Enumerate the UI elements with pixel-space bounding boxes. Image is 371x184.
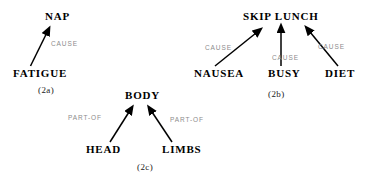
node-body: BODY: [125, 90, 160, 101]
node-nausea: NAUSEA: [194, 68, 244, 79]
caption-2c: (2c): [137, 163, 153, 172]
arrow-limbs-to-body: [152, 112, 172, 142]
arrow-head-to-body: [110, 112, 129, 142]
edge-label-part-of-head-body: PART-OF: [68, 115, 102, 122]
node-skip-lunch: SKIP LUNCH: [243, 11, 319, 22]
edge-label-cause-diet-skip-lunch: CAUSE: [318, 44, 345, 51]
node-busy: BUSY: [268, 68, 301, 79]
node-fatigue: FATIGUE: [13, 68, 67, 79]
edge-label-cause-fatigue-nap: CAUSE: [51, 41, 78, 48]
edge-label-cause-busy-skip-lunch: CAUSE: [272, 55, 299, 62]
edge-label-part-of-limbs-body: PART-OF: [170, 117, 204, 124]
caption-2a: (2a): [38, 86, 54, 95]
arrow-layer: [0, 0, 371, 184]
caption-2b: (2b): [268, 90, 285, 99]
node-head: HEAD: [86, 144, 121, 155]
edge-label-cause-nausea-skip-lunch: CAUSE: [205, 45, 232, 52]
node-diet: DIET: [325, 68, 355, 79]
semantic-network-figure: NAP CAUSE FATIGUE (2a) SKIP LUNCH CAUSE …: [0, 0, 371, 184]
arrow-fatigue-to-nap: [31, 34, 47, 67]
node-limbs: LIMBS: [162, 144, 201, 155]
node-nap: NAP: [45, 11, 70, 22]
